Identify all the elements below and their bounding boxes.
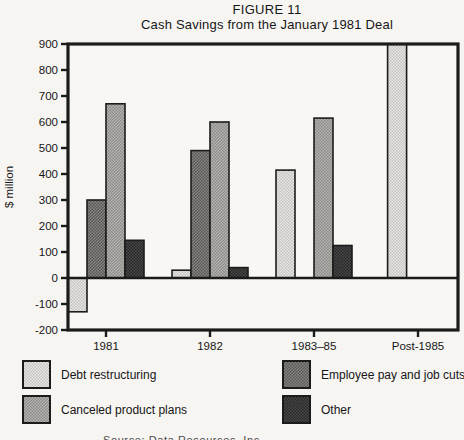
chart-legend: Debt restructuring Employee pay and job … (0, 356, 464, 428)
y-tick-label: 600 (39, 116, 58, 128)
y-tick-label: 0 (52, 272, 58, 284)
bar-canceled-product-plans-1981 (106, 104, 125, 278)
x-tick-label-1982: 1982 (197, 340, 223, 352)
y-tick-label: 100 (39, 246, 58, 258)
bar-employee-pay-and-job-cuts-1982 (191, 151, 210, 278)
legend-item-other: Other (282, 395, 351, 424)
y-tick-label: -100 (35, 298, 58, 310)
legend-item-canceled-product-plans: Canceled product plans (22, 395, 187, 424)
legend-swatch-canceled-product-plans (22, 395, 51, 424)
bar-other-1983-85 (333, 246, 352, 279)
y-tick-label: 700 (39, 90, 58, 102)
source-caption: Source: Data Resources, Inc. (103, 434, 263, 440)
bar-debt-restructuring-1981 (68, 278, 87, 312)
bar-debt-restructuring-1983-85 (276, 170, 295, 278)
legend-label: Canceled product plans (61, 403, 187, 417)
legend-swatch-other (282, 395, 311, 424)
legend-swatch-debt-restructuring (22, 360, 51, 389)
bar-employee-pay-and-job-cuts-1981 (87, 200, 106, 278)
y-tick-label: 800 (39, 64, 58, 76)
figure-page: FIGURE 11 Cash Savings from the January … (0, 0, 464, 440)
bar-chart: 9008007006005004003002001000-100-200$ mi… (0, 0, 464, 360)
bar-canceled-product-plans-1982 (210, 122, 229, 278)
bar-other-1981 (125, 240, 144, 278)
legend-swatch-employee-pay-and-job-cuts (282, 360, 311, 389)
bar-canceled-product-plans-1983-85 (314, 118, 333, 278)
y-tick-label: 200 (39, 220, 58, 232)
y-tick-label: 900 (39, 38, 58, 50)
y-tick-label: -200 (35, 324, 58, 336)
y-tick-label: 400 (39, 168, 58, 180)
x-tick-label-1981: 1981 (93, 340, 119, 352)
legend-item-debt-restructuring: Debt restructuring (22, 360, 156, 389)
legend-label: Other (321, 403, 351, 417)
y-tick-label: 300 (39, 194, 58, 206)
bar-debt-restructuring-post-1985 (388, 44, 407, 278)
x-tick-label-post-1985: Post-1985 (392, 340, 444, 352)
x-tick-label-1983-85: 1983–85 (292, 340, 337, 352)
legend-item-employee-pay-and-job-cuts: Employee pay and job cuts (282, 360, 464, 389)
y-tick-label: 500 (39, 142, 58, 154)
bar-other-1982 (229, 268, 248, 278)
legend-label: Debt restructuring (61, 368, 156, 382)
y-axis-title: $ million (3, 166, 15, 208)
legend-label: Employee pay and job cuts (321, 368, 464, 382)
